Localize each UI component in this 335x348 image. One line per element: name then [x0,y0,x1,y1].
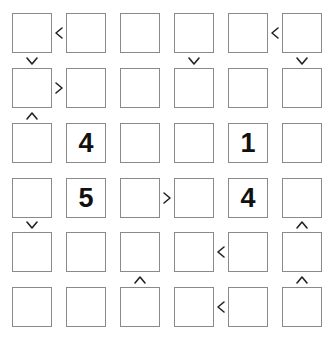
cell-r5-c2[interactable] [120,287,160,327]
less-than-icon [268,26,282,40]
cell-r0-c5[interactable] [282,13,322,53]
greater-than-icon [52,81,66,95]
greater-than-down-icon [295,54,309,68]
cell-r0-c1[interactable] [66,13,106,53]
cell-r4-c1[interactable] [66,232,106,272]
cell-r5-c5[interactable] [282,287,322,327]
futoshiki-board: 4154 [0,0,335,348]
cell-r2-c5[interactable] [282,123,322,163]
less-than-up-icon [25,109,39,123]
cell-r1-c1[interactable] [66,68,106,108]
cell-r5-c3[interactable] [174,287,214,327]
cell-r3-c3[interactable] [174,178,214,218]
cell-r3-c2[interactable] [120,178,160,218]
cell-r2-c4[interactable]: 1 [228,123,268,163]
cell-r3-c0[interactable] [12,178,52,218]
cell-r4-c2[interactable] [120,232,160,272]
greater-than-down-icon [187,54,201,68]
cell-r1-c0[interactable] [12,68,52,108]
cell-r2-c2[interactable] [120,123,160,163]
cell-r4-c0[interactable] [12,232,52,272]
cell-r0-c4[interactable] [228,13,268,53]
cell-r5-c0[interactable] [12,287,52,327]
cell-r3-c1[interactable]: 5 [66,178,106,218]
cell-r4-c4[interactable] [228,232,268,272]
greater-than-icon [160,191,174,205]
cell-r1-c2[interactable] [120,68,160,108]
cell-r0-c3[interactable] [174,13,214,53]
cell-r2-c3[interactable] [174,123,214,163]
less-than-icon [214,245,228,259]
less-than-up-icon [133,273,147,287]
cell-r1-c3[interactable] [174,68,214,108]
cell-r1-c4[interactable] [228,68,268,108]
cell-r0-c2[interactable] [120,13,160,53]
cell-r3-c5[interactable] [282,178,322,218]
less-than-up-icon [295,218,309,232]
cell-r4-c3[interactable] [174,232,214,272]
cell-r1-c5[interactable] [282,68,322,108]
cell-r4-c5[interactable] [282,232,322,272]
less-than-icon [52,26,66,40]
less-than-up-icon [295,273,309,287]
less-than-icon [214,300,228,314]
cell-r5-c1[interactable] [66,287,106,327]
greater-than-down-icon [25,54,39,68]
cell-r3-c4[interactable]: 4 [228,178,268,218]
cell-r2-c0[interactable] [12,123,52,163]
cell-r5-c4[interactable] [228,287,268,327]
cell-r2-c1[interactable]: 4 [66,123,106,163]
cell-r0-c0[interactable] [12,13,52,53]
greater-than-down-icon [25,218,39,232]
